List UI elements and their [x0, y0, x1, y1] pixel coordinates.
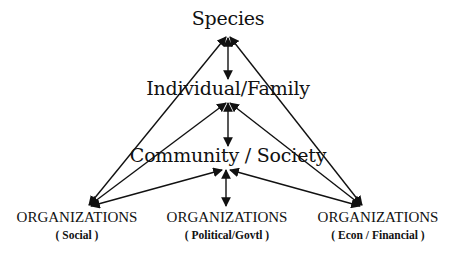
edge-community-social [91, 170, 222, 206]
node-org-political-subtitle: ( Political/Govtl ) [185, 230, 269, 242]
node-org-social-title: ORGANIZATIONS [17, 210, 138, 225]
node-species: Species [192, 9, 265, 28]
node-org-social-subtitle: ( Social ) [56, 230, 99, 242]
node-individual-family: Individual/Family [146, 79, 310, 98]
node-org-political-title: ORGANIZATIONS [167, 210, 288, 225]
edge-community-econ [230, 170, 360, 206]
node-community-society: Community / Society [130, 146, 326, 165]
node-org-econ-subtitle: ( Econ / Financial ) [331, 230, 424, 242]
node-org-econ-title: ORGANIZATIONS [318, 210, 439, 225]
edge-species-econ [230, 37, 362, 205]
diagram-canvas: Species Individual/Family Community / So… [0, 0, 454, 255]
edge-species-social [89, 37, 226, 205]
